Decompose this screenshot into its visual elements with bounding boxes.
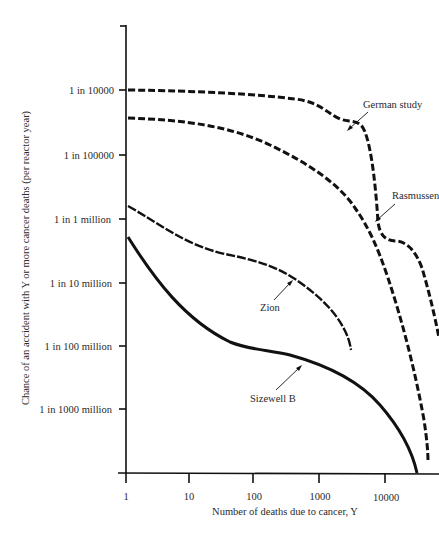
y-tick-label: 1 in 10000 — [69, 85, 114, 96]
label-rasmussen: Rasmussen — [392, 190, 439, 201]
y-ticks — [119, 90, 126, 409]
y-tick-labels: 1 in 10000 1 in 100000 1 in 1 million 1 … — [39, 85, 114, 415]
x-tick-labels: 1 10 100 1000 10000 — [123, 491, 399, 503]
x-tick-label: 1 — [123, 491, 128, 502]
curve-zion — [128, 206, 351, 350]
label-zion: Zion — [260, 302, 281, 313]
y-tick-label: 1 in 100 million — [45, 341, 113, 352]
arrow-zion — [274, 282, 291, 300]
x-axis-title: Number of deaths due to cancer, Y — [212, 506, 358, 517]
y-tick-label: 1 in 10 million — [50, 278, 113, 289]
x-tick-label: 1000 — [310, 491, 331, 502]
risk-curve-chart: 1 in 10000 1 in 100000 1 in 1 million 1 … — [0, 0, 439, 535]
x-tick-label: 100 — [246, 491, 262, 502]
label-sizewell-b: Sizewell B — [250, 393, 296, 404]
arrow-rasmussen — [377, 204, 395, 220]
x-tick-label: 10000 — [373, 492, 399, 503]
x-axis — [118, 473, 439, 474]
arrow-german-study — [349, 112, 368, 129]
y-tick-label: 1 in 100000 — [64, 150, 114, 161]
arrow-sizewell-b — [276, 367, 300, 390]
y-tick-label: 1 in 1000 million — [39, 404, 112, 415]
y-tick-label: 1 in 1 million — [54, 214, 112, 225]
curve-sizewell-b — [128, 237, 417, 473]
x-tick-label: 10 — [184, 491, 195, 502]
axes — [118, 25, 439, 474]
y-axis-title: Chance of an accident with Y or more can… — [20, 110, 32, 405]
label-german-study: German study — [363, 99, 423, 110]
series-curves — [128, 90, 439, 473]
